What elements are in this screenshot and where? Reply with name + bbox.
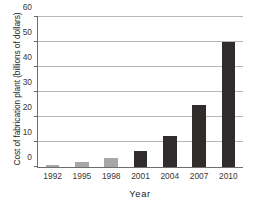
y-tick-label: 60: [23, 2, 32, 12]
y-tick-label: 40: [23, 52, 32, 62]
y-tick-label: 0: [27, 152, 32, 162]
x-tick-label: 2007: [190, 171, 209, 181]
bar: [192, 105, 205, 168]
y-axis-title: Cost of fabrication plant (billions of d…: [12, 9, 22, 169]
bar-slot: 2004: [155, 17, 184, 167]
bar: [163, 136, 176, 167]
y-tick-label: 30: [23, 77, 32, 87]
bar-slot: 1992: [38, 17, 67, 167]
bar: [75, 162, 88, 167]
bar-slot: 1995: [67, 17, 96, 167]
y-tick-label: 10: [23, 127, 32, 137]
y-tick-label: 50: [23, 27, 32, 37]
bar-slot: 1998: [97, 17, 126, 167]
bar-chart: Cost of fabrication plant (billions of d…: [0, 0, 257, 204]
bar: [46, 165, 59, 168]
x-axis-title: Year: [37, 188, 243, 199]
x-tick-label: 2010: [219, 171, 238, 181]
bar-series: 1992199519982001200420072010: [38, 17, 243, 167]
x-tick-label: 1998: [102, 171, 121, 181]
x-tick-label: 1992: [43, 171, 62, 181]
bar-slot: 2001: [126, 17, 155, 167]
bar: [222, 42, 235, 167]
plot-area: 0102030405060 19921995199820012004200720…: [37, 17, 243, 168]
y-tick-label: 20: [23, 102, 32, 112]
bar: [104, 158, 117, 167]
bar-slot: 2007: [184, 17, 213, 167]
bar: [134, 151, 147, 167]
bar-slot: 2010: [214, 17, 243, 167]
x-tick-label: 2001: [131, 171, 150, 181]
x-tick-label: 1995: [73, 171, 92, 181]
x-tick-label: 2004: [160, 171, 179, 181]
